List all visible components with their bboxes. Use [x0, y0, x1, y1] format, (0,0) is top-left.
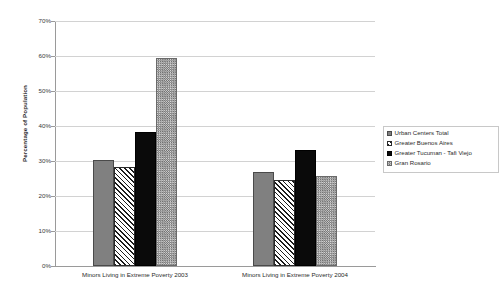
- bar: [253, 172, 274, 266]
- bar: [135, 132, 156, 266]
- gridline: [55, 91, 375, 92]
- y-axis-tick-label: 60%: [25, 53, 51, 59]
- gridline: [55, 126, 375, 127]
- legend-item-label: Urban Centers Total: [395, 130, 449, 136]
- x-axis-group-label: Minors Living in Extreme Poverty 2004: [215, 272, 375, 278]
- y-axis-tick-label: 40%: [25, 123, 51, 129]
- bar-chart: Percentage of Population 70%60%50%40%30%…: [0, 0, 502, 301]
- bar: [274, 180, 295, 266]
- y-axis-tick-label: 70%: [25, 18, 51, 24]
- y-axis-tick-label: 30%: [25, 158, 51, 164]
- x-axis-group-label: Minors Living in Extreme Poverty 2003: [55, 272, 215, 278]
- bar: [295, 150, 316, 266]
- legend-item-label: Greater Tucuman - Tafi Viejo: [395, 150, 472, 156]
- x-axis-line: [55, 266, 376, 267]
- legend: Urban Centers TotalGreater Buenos AiresG…: [383, 126, 499, 173]
- bar: [156, 58, 177, 266]
- legend-item[interactable]: Urban Centers Total: [387, 129, 496, 138]
- plot-area: [55, 21, 375, 266]
- legend-swatch-icon: [387, 141, 392, 146]
- y-axis-tick-label: 50%: [25, 88, 51, 94]
- legend-item[interactable]: Gran Rosario: [387, 159, 496, 168]
- y-axis-tick-label: 20%: [25, 193, 51, 199]
- y-axis-tick-label: 0%: [25, 263, 51, 269]
- bar: [93, 160, 114, 266]
- legend-swatch-icon: [387, 151, 392, 156]
- legend-swatch-icon: [387, 161, 392, 166]
- gridline: [55, 56, 375, 57]
- legend-item-label: Greater Buenos Aires: [395, 140, 453, 146]
- legend-item[interactable]: Greater Buenos Aires: [387, 139, 496, 148]
- legend-item-label: Gran Rosario: [395, 160, 431, 166]
- gridline: [55, 21, 375, 22]
- y-axis-tick-label: 10%: [25, 228, 51, 234]
- bar: [114, 167, 135, 266]
- bar: [316, 176, 337, 266]
- y-axis-tick-labels: 70%60%50%40%30%20%10%0%: [21, 0, 51, 301]
- legend-item[interactable]: Greater Tucuman - Tafi Viejo: [387, 149, 496, 158]
- legend-swatch-icon: [387, 131, 392, 136]
